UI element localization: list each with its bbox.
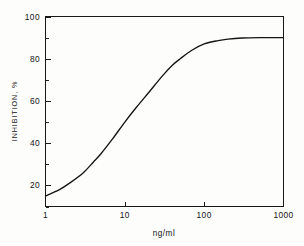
inhibition-curve	[46, 38, 284, 196]
x-tick-label-1000: 1000	[273, 210, 293, 220]
y-tick-label-60: 60	[30, 96, 40, 106]
y-tick-label-40: 40	[30, 138, 40, 148]
x-axis-ticks	[126, 202, 205, 207]
y-tick-label-100: 100	[25, 12, 40, 22]
plot-frame-path	[46, 17, 284, 207]
y-tick-label-20: 20	[30, 180, 40, 190]
x-axis-title: ng/ml	[153, 229, 176, 238]
y-axis-tick-labels: 20406080100	[25, 12, 40, 191]
y-axis-ticks	[46, 18, 51, 186]
data-series-inhibition	[46, 38, 284, 196]
x-axis-tick-labels: 1101001000	[43, 210, 294, 220]
x-tick-label-10: 10	[120, 210, 130, 220]
figure-root: 20406080100 1101001000 ng/ml INHIBITION,…	[0, 0, 304, 246]
x-tick-label-1: 1	[43, 210, 48, 220]
y-tick-label-80: 80	[30, 54, 40, 64]
inhibition-dose-response-chart: 20406080100 1101001000 ng/ml INHIBITION,…	[0, 0, 304, 246]
y-axis-title: INHIBITION, %	[10, 81, 19, 141]
plot-frame	[46, 17, 284, 207]
x-tick-label-100: 100	[197, 210, 212, 220]
